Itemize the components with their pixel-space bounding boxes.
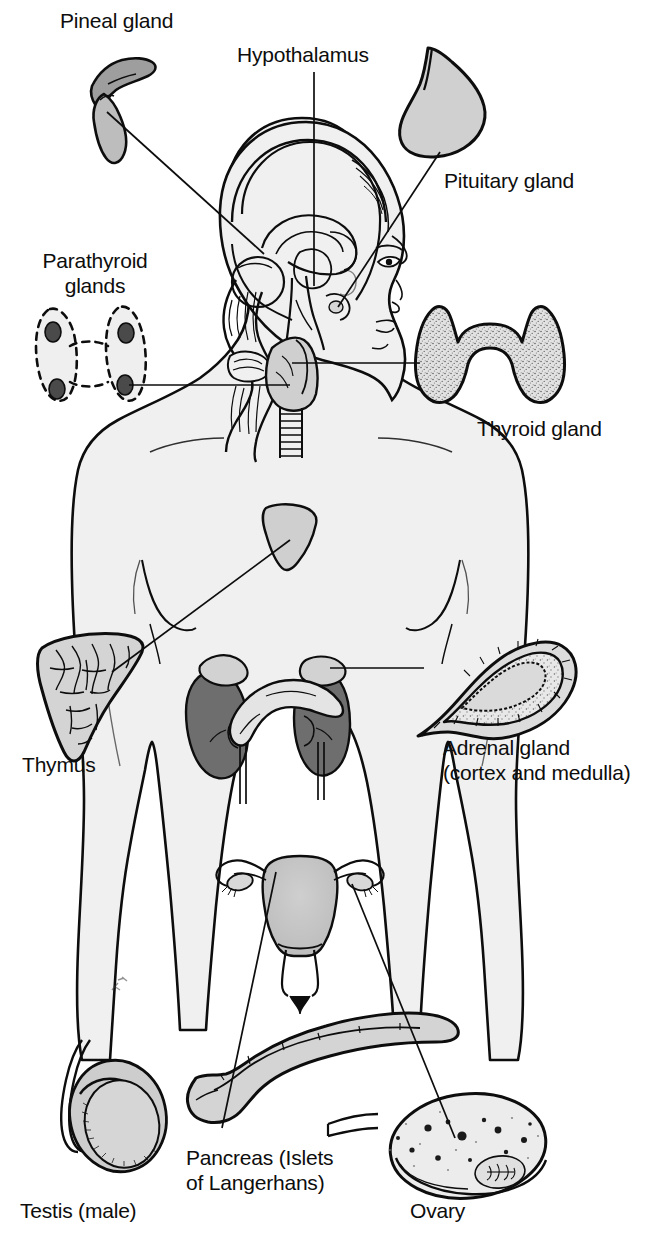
label-parathyroid-glands: Parathyroid glands [30, 248, 160, 298]
pupil [386, 259, 392, 265]
adrenal-left-in-situ [199, 655, 247, 685]
hair-gather [228, 352, 270, 382]
label-adrenal-gland: Adrenal gland (cortex and medulla) [443, 735, 630, 785]
label-ovary: Ovary [410, 1198, 465, 1223]
uterus-body [263, 856, 338, 956]
label-pineal-gland: Pineal gland [60, 8, 173, 33]
parathyroid-nodule-upper-left [45, 322, 61, 342]
parathyroid-nodule-lower-left [49, 379, 65, 399]
parathyroid-nodule-upper-right [118, 323, 134, 343]
label-thymus: Thymus [22, 752, 95, 777]
label-pituitary-gland: Pituitary gland [444, 168, 574, 193]
label-pancreas: Pancreas (Islets of Langerhans) [186, 1145, 333, 1195]
label-hypothalamus: Hypothalamus [237, 42, 369, 67]
endocrine-diagram: Pineal gland Hypothalamus Pituitary glan… [0, 0, 661, 1245]
label-testis: Testis (male) [20, 1198, 136, 1223]
trachea-rings [280, 414, 302, 456]
thyroid-in-situ [266, 338, 318, 411]
label-thyroid-gland: Thyroid gland [477, 416, 602, 441]
